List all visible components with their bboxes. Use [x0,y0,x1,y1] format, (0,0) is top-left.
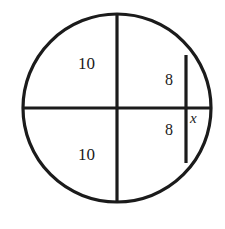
label-chord-lower-10: 10 [78,146,95,163]
geometry-figure: 10 10 8 8 x [0,0,225,229]
label-half-chord-upper-8: 8 [165,72,173,88]
label-unknown-segment-x: x [190,111,197,126]
label-chord-upper-10: 10 [78,55,95,72]
label-half-chord-lower-8: 8 [165,122,173,138]
